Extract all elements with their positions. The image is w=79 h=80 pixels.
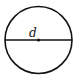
diameter-label: d (29, 26, 37, 40)
circle-diagram-svg: d (0, 0, 79, 80)
circle-diagram: d (0, 0, 79, 80)
center-point (37, 38, 40, 41)
